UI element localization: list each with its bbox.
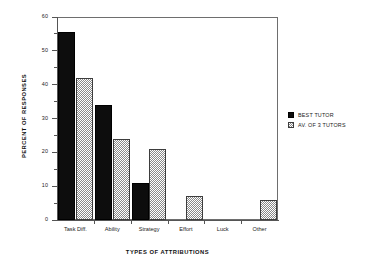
bar-effort-av-3-tutors [186, 196, 203, 220]
bar-other-av-3-tutors [260, 200, 277, 220]
x-axis-tick [241, 220, 242, 224]
legend-label-best-tutor: BEST TUTOR [298, 112, 334, 118]
bar-strategy-av-3-tutors [149, 149, 166, 220]
legend-item-best-tutor: BEST TUTOR [288, 111, 346, 119]
y-axis-tick-label: 20 [26, 149, 48, 154]
y-axis-tick [52, 50, 57, 51]
x-axis-tick [168, 220, 169, 224]
y-axis-tick [52, 118, 57, 119]
chart-legend: BEST TUTOR AV. OF 3 TUTORS [288, 111, 346, 131]
legend-swatch-hatched-icon [288, 122, 294, 128]
bar-task-diff-av-3-tutors [76, 78, 93, 220]
y-axis-title: PERCENT OF RESPONSES [21, 51, 27, 181]
legend-swatch-solid-icon [288, 112, 294, 118]
y-axis-tick [52, 152, 57, 153]
bar-strategy-best-tutor [132, 183, 149, 220]
y-axis-tick [52, 186, 57, 187]
y-axis-tick-label: 30 [26, 116, 48, 121]
y-axis-tick-label: 0 [26, 217, 48, 222]
y-axis-tick [52, 17, 57, 18]
x-axis-tick-label: Strategy [139, 226, 160, 232]
bar-chart-figure: 0102030405060 Task Diff.AbilityStrategyE… [0, 0, 376, 267]
x-axis-tick-label: Luck [217, 226, 229, 232]
bar-ability-best-tutor [95, 105, 112, 220]
x-axis-title: TYPES OF ATTRIBUTIONS [57, 249, 278, 255]
y-axis-minor-tick [54, 33, 57, 34]
y-axis-tick [52, 220, 57, 221]
bar-task-diff-best-tutor [58, 32, 75, 220]
y-axis-minor-tick [54, 135, 57, 136]
y-axis-minor-tick [54, 67, 57, 68]
bar-ability-av-3-tutors [113, 139, 130, 220]
y-axis-minor-tick [54, 203, 57, 204]
x-axis-tick-label: Effort [179, 226, 192, 232]
y-axis-tick-label: 60 [26, 14, 48, 19]
x-axis-tick [131, 220, 132, 224]
legend-label-av-3-tutors: AV. OF 3 TUTORS [298, 122, 346, 128]
y-axis-minor-tick [54, 101, 57, 102]
x-axis-tick [204, 220, 205, 224]
x-axis-tick [94, 220, 95, 224]
y-axis-tick-label: 40 [26, 82, 48, 87]
x-axis-tick-label: Ability [105, 226, 120, 232]
y-axis-minor-tick [54, 169, 57, 170]
y-axis-tick [52, 84, 57, 85]
legend-item-av-3-tutors: AV. OF 3 TUTORS [288, 121, 346, 129]
x-axis-tick-label: Task Diff. [64, 226, 87, 232]
y-axis-tick-label: 10 [26, 183, 48, 188]
y-axis-tick-label: 50 [26, 48, 48, 53]
x-axis-tick-label: Other [253, 226, 267, 232]
